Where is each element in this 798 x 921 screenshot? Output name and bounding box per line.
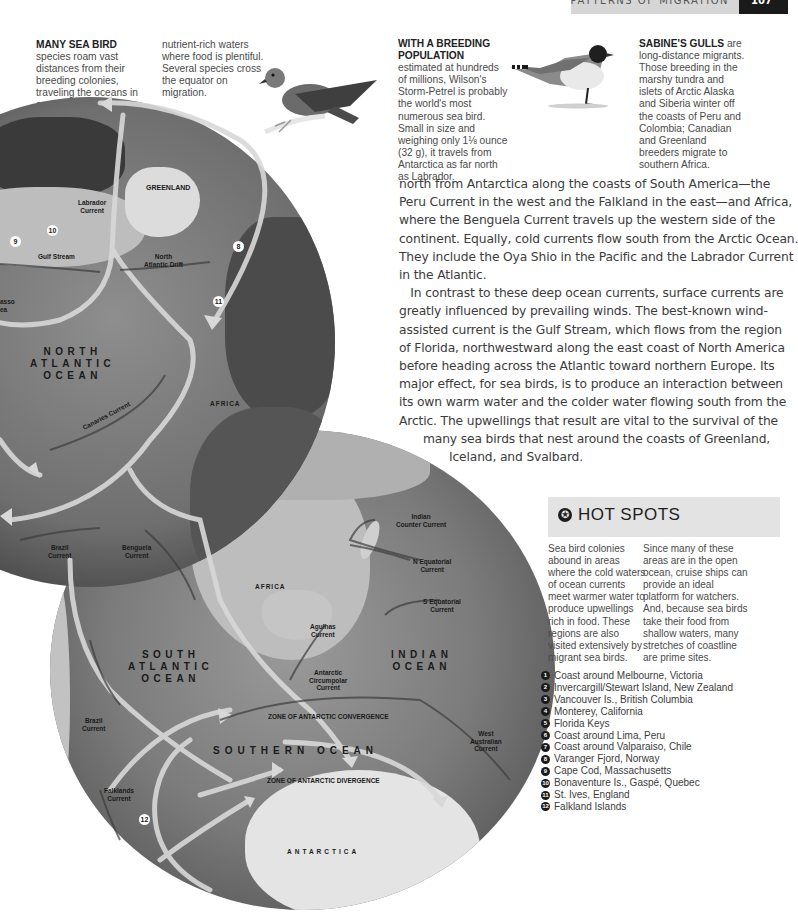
hot-spots-header: ✪HOT SPOTS	[548, 497, 780, 537]
number-icon: 9	[541, 767, 550, 776]
label-benguela-current: Benguela Current	[122, 544, 151, 559]
site-name: Invercargill/Stewart Island, New Zealand	[554, 682, 733, 694]
site-name: Varanger Fjord, Norway	[554, 753, 659, 765]
label-indian-counter-current: Indian Counter Current	[396, 513, 446, 528]
list-item: 6Coast around Lima, Peru	[541, 730, 733, 742]
label-southern-ocean: SOUTHERN OCEAN	[213, 745, 378, 756]
label-west-australian-current: West Australian Current	[470, 730, 502, 753]
list-item: 3Vancouver Is., British Columbia	[541, 694, 733, 706]
number-icon: 10	[541, 779, 550, 788]
number-icon: 1	[541, 671, 550, 680]
marker-10: 10	[47, 225, 58, 236]
list-item: 9Cape Cod, Massachusetts	[541, 765, 733, 777]
label-agulhas-current: Agulhas Current	[310, 623, 336, 638]
label-africa-south: AFRICA	[255, 583, 286, 590]
marker-12: 12	[139, 814, 150, 825]
label-labrador-current: Labrador Current	[78, 199, 106, 214]
list-item: 8Varanger Fjord, Norway	[541, 753, 733, 765]
site-name: Falkland Islands	[554, 801, 626, 813]
site-name: Vancouver Is., British Columbia	[554, 694, 693, 706]
label-zone-convergence: ZONE OF ANTARCTIC CONVERGENCE	[268, 713, 389, 720]
list-item: 4Monterey, California	[541, 706, 733, 718]
running-header: PATTERNS OF MIGRATION	[571, 0, 739, 14]
site-name: Bonaventure Is., Gaspé, Quebec	[554, 777, 700, 789]
label-n-equatorial-current: N Equatorial Current	[413, 558, 451, 573]
star-icon: ✪	[558, 508, 572, 522]
site-name: Coast around Lima, Peru	[554, 730, 665, 742]
marker-8: 8	[233, 241, 244, 252]
number-icon: 2	[541, 683, 550, 692]
number-icon: 5	[541, 719, 550, 728]
label-zone-divergence: ZONE OF ANTARCTIC DIVERGENCE	[267, 777, 380, 784]
label-north-atlantic-ocean: NORTH ATLANTIC OCEAN	[30, 346, 115, 382]
label-africa-north: AFRICA	[210, 400, 241, 407]
number-icon: 11	[541, 791, 550, 800]
sabines-gull-caption: SABINE'S GULLS are long-distance migrant…	[639, 38, 749, 171]
site-name: Coast around Valparaiso, Chile	[554, 741, 692, 753]
list-item: 5Florida Keys	[541, 718, 733, 730]
site-name: St. Ives, England	[554, 789, 630, 801]
sabines-gull-text: are long-distance migrants. Those breedi…	[639, 38, 744, 170]
label-falklands-current: Falklands Current	[104, 787, 134, 802]
site-name: Florida Keys	[554, 718, 610, 730]
list-item: 10Bonaventure Is., Gaspé, Quebec	[541, 777, 733, 789]
site-name: Coast around Melbourne, Victoria	[554, 670, 703, 682]
list-item: 7Coast around Valparaiso, Chile	[541, 741, 733, 753]
label-south-atlantic-ocean: SOUTH ATLANTIC OCEAN	[128, 649, 213, 685]
label-indian-ocean: INDIAN OCEAN	[391, 649, 452, 673]
number-icon: 8	[541, 755, 550, 764]
marker-9: 9	[10, 236, 21, 247]
number-icon: 4	[541, 707, 550, 716]
page-number: 107	[751, 0, 772, 6]
marker-11: 11	[213, 296, 224, 307]
page-number-box: 107	[739, 0, 788, 14]
label-brazil-current-top: Brazil Current	[48, 544, 71, 559]
site-name: Monterey, California	[554, 706, 643, 718]
hot-spots-title-text: HOT SPOTS	[578, 505, 680, 524]
label-gulf-stream: Gulf Stream	[38, 253, 75, 261]
label-s-equatorial-current: S Equatorial Current	[423, 598, 461, 613]
hot-spots-title: ✪HOT SPOTS	[558, 505, 680, 525]
list-item: 12Falkland Islands	[541, 801, 733, 813]
list-item: 2Invercargill/Stewart Island, New Zealan…	[541, 682, 733, 694]
sabines-gull-lead: SABINE'S GULLS	[639, 38, 724, 49]
label-antarctica: ANTARCTICA	[287, 848, 359, 855]
number-icon: 3	[541, 695, 550, 704]
number-icon: 12	[541, 802, 550, 811]
hot-spots-col1: Sea bird colonies abound in areas where …	[548, 543, 648, 664]
label-brazil-current-left: Brazil Current	[82, 717, 105, 732]
number-icon: 6	[541, 731, 550, 740]
list-item: 1Coast around Melbourne, Victoria	[541, 670, 733, 682]
label-greenland: GREENLAND	[146, 184, 190, 191]
list-item: 11St. Ives, England	[541, 789, 733, 801]
number-icon: 7	[541, 743, 550, 752]
label-north-atlantic-drift: North Atlantic Drift	[144, 253, 183, 268]
site-name: Cape Cod, Massachusetts	[554, 765, 671, 777]
label-antarctic-circumpolar-current: Antarctic Circumpolar Current	[309, 669, 347, 692]
running-title: PATTERNS OF MIGRATION	[571, 0, 729, 6]
hot-spots-col2: Since many of these areas are in the ope…	[643, 543, 749, 664]
hot-spots-list: 1Coast around Melbourne, Victoria 2Inver…	[541, 670, 733, 813]
label-sargasso-sea: asso ea	[0, 298, 15, 313]
